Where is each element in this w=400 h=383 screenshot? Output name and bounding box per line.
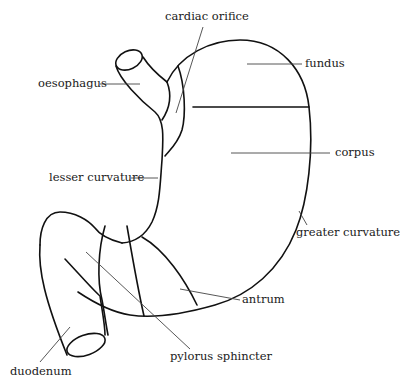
- label-lesser-curvature: lesser curvature: [49, 172, 144, 184]
- label-oesophagus: oesophagus: [38, 78, 107, 90]
- duodenum-outer: [40, 245, 67, 355]
- lesser-curvature-bottom: [40, 212, 122, 245]
- oesophagus-right-wall: [143, 57, 167, 82]
- label-fundus: fundus: [305, 58, 345, 70]
- duodenum-leader: [40, 327, 70, 362]
- label-pylorus-sphincter: pylorus sphincter: [170, 351, 272, 363]
- label-greater-curvature: greater curvature: [296, 227, 400, 239]
- label-antrum: antrum: [242, 294, 285, 306]
- label-duodenum: duodenum: [10, 366, 72, 378]
- label-corpus: corpus: [335, 147, 375, 159]
- label-cardiac-orifice: cardiac orifice: [165, 11, 249, 23]
- antrum-upper-edge: [142, 237, 197, 305]
- antrum-leader: [180, 289, 240, 300]
- cardiac-band-left: [162, 82, 170, 120]
- duodenum-opening: [64, 329, 108, 361]
- oesophagus-left-wall: [116, 66, 163, 243]
